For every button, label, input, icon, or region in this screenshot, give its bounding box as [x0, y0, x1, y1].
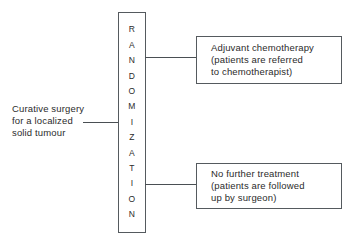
randomization-letter-5: O: [129, 84, 136, 99]
arm-1-line-1: Adjuvant chemotherapy: [211, 42, 314, 54]
randomization-letter-1: R: [129, 22, 135, 37]
arm-2-line-3: up by surgeon): [211, 192, 305, 204]
randomization-box: R A N D O M I Z A T I O N: [118, 12, 146, 233]
randomization-letter-4: D: [129, 69, 135, 84]
adjuvant-chemotherapy-arm: Adjuvant chemotherapy (patients are refe…: [196, 36, 342, 84]
randomization-letter-6: M: [128, 99, 135, 114]
arm-2-line-1: No further treatment: [211, 168, 305, 180]
entry-label-line-1: Curative surgery: [12, 103, 84, 115]
randomization-letter-2: A: [129, 38, 135, 53]
randomization-letter-7: I: [131, 115, 134, 130]
no-further-treatment-text: No further treatment (patients are follo…: [211, 168, 305, 204]
randomization-letter-11: I: [131, 176, 134, 191]
connector-randomization-to-arm-1: [145, 57, 197, 58]
randomization-letter-13: N: [129, 207, 135, 222]
randomization-letters: R A N D O M I Z A T I O N: [119, 13, 145, 232]
connector-randomization-to-arm-2: [145, 184, 197, 185]
arm-1-line-3: to chemotherapist): [211, 66, 314, 78]
randomization-letter-12: O: [129, 192, 136, 207]
arm-1-line-2: (patients are referred: [211, 54, 314, 66]
curative-surgery-label: Curative surgery for a localized solid t…: [12, 103, 84, 139]
randomization-letter-10: T: [129, 161, 135, 176]
entry-label-line-2: for a localized: [12, 115, 84, 127]
adjuvant-chemotherapy-text: Adjuvant chemotherapy (patients are refe…: [211, 42, 314, 78]
randomization-letter-8: Z: [129, 130, 135, 145]
arm-2-line-2: (patients are followed: [211, 180, 305, 192]
connector-entry-to-randomization: [83, 122, 119, 123]
entry-label-line-3: solid tumour: [12, 127, 84, 139]
randomization-flow-diagram: Curative surgery for a localized solid t…: [0, 0, 351, 244]
randomization-letter-9: A: [129, 146, 135, 161]
no-further-treatment-arm: No further treatment (patients are follo…: [196, 163, 342, 209]
randomization-letter-3: N: [129, 53, 135, 68]
